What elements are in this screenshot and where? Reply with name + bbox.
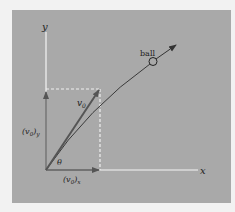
theta-label: θ: [57, 158, 62, 167]
v0-label: v0: [77, 98, 86, 109]
trajectory-curve: [46, 64, 150, 170]
ball-label: ball: [140, 49, 155, 58]
projectile-diagram: y x ball v0 (v0)y (v0)x θ: [0, 0, 235, 212]
x-axis-label: x: [200, 165, 206, 176]
v0y-label: (v0)y: [22, 127, 40, 138]
v0x-label: (v0)x: [63, 175, 81, 185]
ball-circle: [149, 58, 157, 66]
v0-vector-arrow: [46, 90, 99, 170]
y-axis-label: y: [41, 21, 48, 32]
trajectory-direction-arrow: [156, 45, 176, 59]
